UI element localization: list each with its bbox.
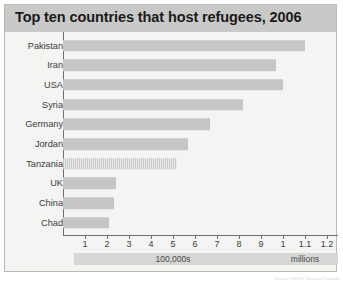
x-axis-tick-label: 1 bbox=[280, 239, 285, 249]
category-label: Jordan bbox=[0, 139, 63, 149]
category-label: USA bbox=[0, 80, 63, 90]
x-axis-tick-label: 9 bbox=[258, 239, 263, 249]
x-axis-tick-label: 4 bbox=[148, 239, 153, 249]
bar-row: China bbox=[5, 194, 338, 213]
x-axis-tick-label: 1.1 bbox=[299, 239, 312, 249]
category-label: UK bbox=[0, 178, 63, 188]
x-axis-tick-label: 7 bbox=[214, 239, 219, 249]
category-label: Iran bbox=[0, 60, 63, 70]
category-label: China bbox=[0, 198, 63, 208]
scale-band-label: millions bbox=[272, 253, 338, 265]
source-note: Source: UNHCR Statistical Yearbook bbox=[150, 276, 340, 281]
bar bbox=[63, 60, 276, 72]
bar bbox=[63, 138, 188, 150]
category-label: Syria bbox=[0, 100, 63, 110]
bar bbox=[63, 119, 210, 131]
bar-row: Germany bbox=[5, 115, 338, 134]
bar bbox=[63, 79, 283, 91]
x-axis-tick-label: 6 bbox=[192, 239, 197, 249]
x-axis-tick-label: 8 bbox=[236, 239, 241, 249]
x-axis-tick-label: 1 bbox=[82, 239, 87, 249]
category-label: Pakistan bbox=[0, 41, 63, 51]
bar bbox=[63, 40, 305, 52]
x-axis-tick-label: 1.2 bbox=[321, 239, 334, 249]
bar-row: Syria bbox=[5, 95, 338, 114]
bar bbox=[63, 99, 243, 111]
x-axis-tick-label: 5 bbox=[170, 239, 175, 249]
bar-row: Pakistan bbox=[5, 36, 338, 55]
x-axis-tick-label: 3 bbox=[126, 239, 131, 249]
bar-row: UK bbox=[5, 174, 338, 193]
bar bbox=[63, 217, 109, 229]
chart-frame: Top ten countries that host refugees, 20… bbox=[4, 4, 337, 272]
x-axis-line bbox=[63, 235, 338, 236]
bar-row: Jordan bbox=[5, 135, 338, 154]
chart-title-bar: Top ten countries that host refugees, 20… bbox=[5, 5, 336, 32]
bar-row: Chad bbox=[5, 213, 338, 232]
scale-band-label: 100,000s bbox=[74, 253, 272, 265]
page-title: Top ten countries that host refugees, 20… bbox=[15, 9, 301, 25]
category-label: Germany bbox=[0, 119, 63, 129]
bar-row: Iran bbox=[5, 56, 338, 75]
x-axis-tick-label: 2 bbox=[104, 239, 109, 249]
bar bbox=[63, 158, 177, 170]
bar-row: Tanzania bbox=[5, 154, 338, 173]
bar bbox=[63, 178, 116, 190]
category-label: Tanzania bbox=[0, 159, 63, 169]
bar bbox=[63, 197, 114, 209]
plot-area: PakistanIranUSASyriaGermanyJordanTanzani… bbox=[5, 32, 338, 273]
bar-row: USA bbox=[5, 75, 338, 94]
category-label: Chad bbox=[0, 218, 63, 228]
